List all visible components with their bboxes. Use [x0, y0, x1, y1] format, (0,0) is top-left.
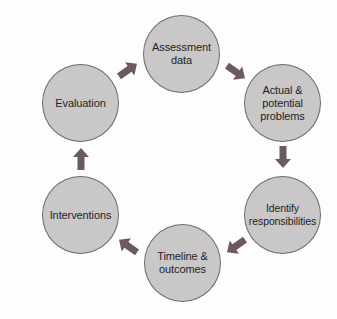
arrow-down-left-icon	[222, 233, 249, 259]
node-label: Evaluation	[55, 97, 105, 110]
node-timeline-outcomes: Timeline & outcomes	[144, 224, 221, 302]
nursing-process-cycle-diagram: Assessment data Actual & potential probl…	[0, 0, 337, 319]
arrow-up-right-icon	[114, 57, 141, 83]
arrow-up-left-icon	[114, 233, 141, 259]
node-label: Interventions	[50, 209, 112, 222]
node-label: Actual & potential problems	[260, 84, 304, 123]
node-assessment-data: Assessment data	[143, 15, 220, 93]
node-evaluation: Evaluation	[42, 64, 119, 142]
node-actual-potential-problems: Actual & potential problems	[244, 64, 321, 142]
node-identify-responsibilities: Identify responsibilities	[244, 176, 321, 254]
node-label: Assessment data	[152, 41, 211, 67]
node-label: Timeline & outcomes	[157, 250, 208, 276]
node-interventions: Interventions	[42, 176, 119, 254]
arrow-up-icon	[73, 148, 89, 170]
node-label: Identify responsibilities	[249, 202, 316, 228]
arrow-down-right-icon	[222, 59, 249, 85]
arrow-down-icon	[275, 146, 291, 168]
